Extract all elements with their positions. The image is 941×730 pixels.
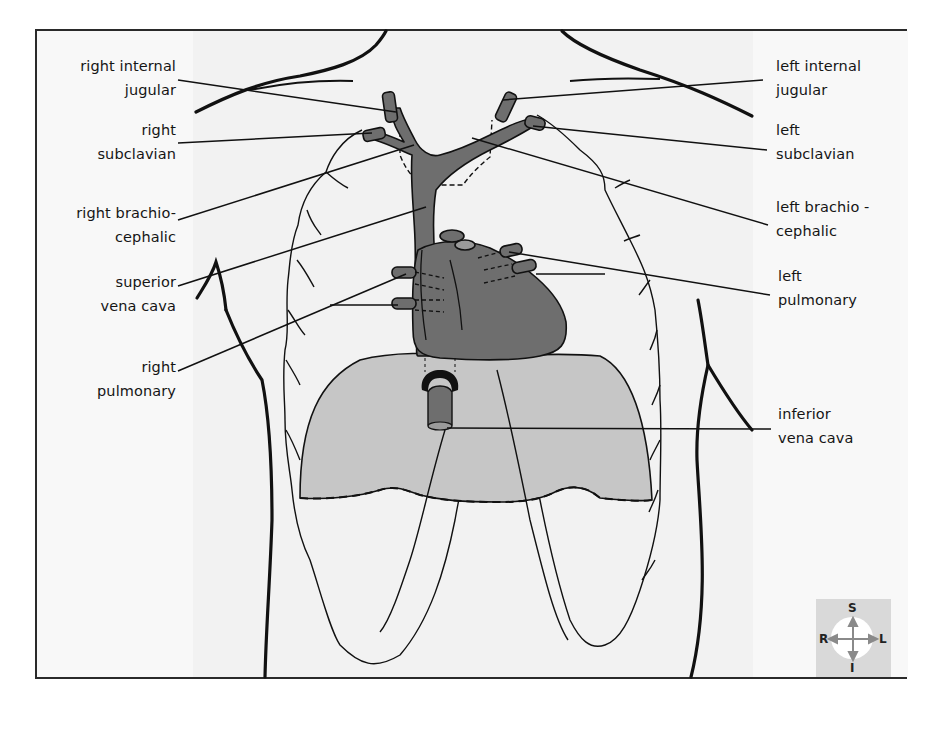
label-line: left brachio -: [776, 195, 916, 219]
label-line: left: [776, 118, 906, 142]
compass-left: L: [879, 633, 887, 645]
label-line: cephalic: [40, 225, 176, 249]
label-left-subclavian: left subclavian: [776, 118, 906, 166]
label-superior-vena-cava: superior vena cava: [60, 270, 176, 318]
label-line: superior: [60, 270, 176, 294]
label-line: pulmonary: [60, 379, 176, 403]
label-line: left: [778, 264, 908, 288]
label-right-internal-jugular: right internal jugular: [60, 54, 176, 102]
label-line: jugular: [60, 78, 176, 102]
orientation-compass: S I R L: [816, 599, 891, 677]
label-left-internal-jugular: left internal jugular: [776, 54, 906, 102]
label-line: jugular: [776, 78, 906, 102]
label-line: right brachio-: [40, 201, 176, 225]
label-line: right: [60, 118, 176, 142]
compass-superior: S: [848, 602, 857, 614]
label-line: vena cava: [778, 426, 908, 450]
label-line: vena cava: [60, 294, 176, 318]
compass-right: R: [819, 633, 828, 645]
label-right-brachiocephalic: right brachio- cephalic: [40, 201, 176, 249]
label-line: pulmonary: [778, 288, 908, 312]
label-line: left internal: [776, 54, 906, 78]
label-left-pulmonary: left pulmonary: [778, 264, 908, 312]
label-line: subclavian: [776, 142, 906, 166]
label-inferior-vena-cava: inferior vena cava: [778, 402, 908, 450]
label-line: subclavian: [60, 142, 176, 166]
label-right-subclavian: right subclavian: [60, 118, 176, 166]
label-line: right internal: [60, 54, 176, 78]
label-left-brachiocephalic: left brachio - cephalic: [776, 195, 916, 243]
compass-inferior: I: [850, 662, 854, 674]
label-line: inferior: [778, 402, 908, 426]
label-line: right: [60, 355, 176, 379]
label-right-pulmonary: right pulmonary: [60, 355, 176, 403]
label-line: cephalic: [776, 219, 916, 243]
